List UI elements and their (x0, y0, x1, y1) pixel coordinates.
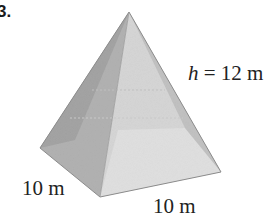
front-face-light (100, 128, 221, 197)
base-right-label: 10 m (153, 194, 196, 219)
base-left-label: 10 m (22, 176, 65, 201)
height-variable: h (188, 61, 199, 85)
height-label: h = 12 m (188, 61, 263, 86)
height-value: = 12 m (199, 61, 264, 85)
